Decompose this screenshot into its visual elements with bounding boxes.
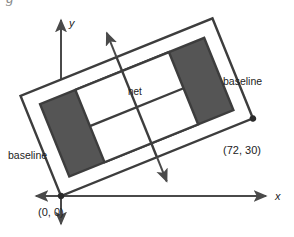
x-axis-label: x [274,190,281,202]
corner-coordinate-label: (72, 30) [223,144,261,156]
y-axis-label: y [68,17,76,29]
figure-root: g [0,0,294,237]
court-group [8,0,266,221]
baseline-label-left: baseline [8,149,47,161]
net-arrow-bottom [157,157,167,181]
net-label: net [128,86,142,97]
baseline-label-right: baseline [223,75,262,87]
origin-label: (0, 0) [38,206,64,218]
clipped-title-glyph: g [6,0,14,6]
net-arrow-top [107,33,117,57]
tennis-court-diagram: y x (0, 0) (72, 30) net baseline baselin… [0,0,294,237]
